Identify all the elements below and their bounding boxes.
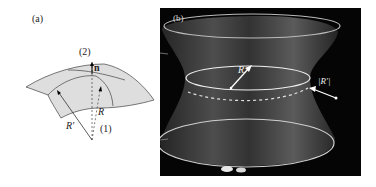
panel-a-saddle-surface-diagram: (a) (2) n R R' (1) <box>0 0 160 187</box>
radius-r-label: R <box>98 106 104 117</box>
normal-vector-label: n <box>94 62 100 73</box>
radius-r-prime-abs-label: |R'| <box>318 76 330 86</box>
point-1-label: (1) <box>100 123 112 134</box>
panel-a-label: (a) <box>32 13 43 24</box>
panel-b-label: (b) <box>173 13 184 23</box>
radius-r-prime-label: R' <box>66 120 74 131</box>
radius-r-label-photo: R <box>238 64 244 75</box>
saddle-surface-drawing <box>0 0 160 187</box>
point-2-label: (2) <box>79 46 91 57</box>
panel-b-soap-film-photo: (b) R |R'| <box>160 8 361 176</box>
catenoid-film-drawing <box>160 8 361 176</box>
